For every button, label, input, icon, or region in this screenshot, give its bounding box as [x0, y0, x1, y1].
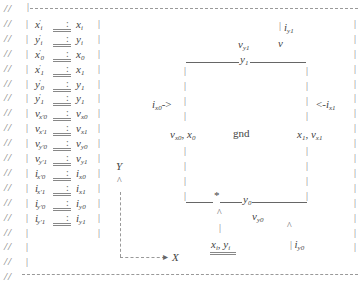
mapping-rhs: ix0 — [76, 167, 86, 181]
mapping-rhs: vx0 — [76, 107, 88, 121]
point-label-underline — [210, 252, 236, 255]
comment-prefix: // — [4, 255, 12, 267]
left-current-label: ix0-> — [152, 98, 172, 112]
top-voltage-label: vy1 — [238, 38, 250, 52]
left-border-bar: | — [26, 107, 28, 118]
mapping-right-bar: | — [98, 152, 100, 163]
mapping-separator: : — [66, 18, 69, 29]
mapping-rhs: ix1 — [76, 182, 86, 196]
mapping-lhs: y′0 — [35, 78, 44, 92]
cell-left-edge-bar: | — [184, 175, 186, 186]
mapping-underline — [53, 178, 71, 181]
comment-prefix: // — [4, 166, 12, 178]
left-border-bar: | — [26, 18, 28, 29]
mapping-right-bar: | — [98, 92, 100, 103]
mapping-rhs: iy1 — [76, 212, 86, 226]
top-edge-right — [250, 62, 306, 63]
mapping-rhs: xi — [76, 18, 83, 32]
x-axis-label: X — [172, 251, 179, 263]
right-border-bar: | — [354, 18, 356, 29]
left-border-bar: | — [26, 227, 28, 238]
mapping-rhs: x1 — [76, 63, 84, 77]
cell-left-edge-bar: | — [184, 80, 186, 91]
frame-bottom-dashed — [22, 274, 358, 275]
top-current-label: iy1 — [284, 21, 294, 35]
cell-left-edge-bar: | — [184, 95, 186, 106]
comment-prefix: // — [4, 106, 12, 118]
cell-left-edge-bar: | — [184, 110, 186, 121]
mapping-right-bar: | — [98, 227, 100, 238]
point-star-marker: * — [214, 189, 220, 201]
mapping-underline — [53, 59, 71, 62]
comment-prefix: // — [4, 77, 12, 89]
comment-prefix: // — [4, 17, 12, 29]
cell-left-edge-bar: | — [184, 190, 186, 201]
mapping-lhs: vy′1 — [35, 152, 47, 166]
mapping-underline — [53, 223, 71, 226]
mapping-underline — [53, 29, 71, 32]
bottom-current-label: | iy0 — [290, 238, 304, 252]
mapping-underline — [53, 148, 71, 151]
cell-left-edge-bar: | — [184, 160, 186, 171]
mapping-lhs: vx′1 — [35, 122, 47, 136]
mapping-rhs: vy1 — [76, 152, 88, 166]
comment-prefix: // — [4, 32, 12, 44]
left-border-bar: | — [26, 167, 28, 178]
left-border-bar: | — [26, 48, 28, 59]
right-border-bar: | — [354, 63, 356, 74]
right-border-bar: | — [354, 33, 356, 44]
right-border-bar: | — [354, 212, 356, 223]
mapping-lhs: x′1 — [35, 63, 44, 77]
left-border-bar: | — [26, 78, 28, 89]
cell-left-edge-bar: | — [184, 145, 186, 156]
mapping-rhs: y1 — [76, 92, 84, 106]
mapping-right-bar: | — [98, 212, 100, 223]
mapping-underline — [53, 163, 71, 166]
left-border-bar: | — [26, 152, 28, 163]
mapping-rhs: yi — [76, 33, 83, 47]
mapping-underline — [53, 133, 71, 136]
right-coord-voltage-label: x1, vx1 — [297, 128, 322, 142]
mapping-separator: : — [66, 48, 69, 59]
comment-prefix: // — [4, 136, 12, 148]
x-axis-arrowhead: ▸ — [163, 251, 168, 262]
mapping-separator: : — [66, 122, 69, 133]
mapping-separator: : — [66, 167, 69, 178]
cell-right-edge-bar: | — [306, 110, 308, 121]
mapping-right-bar: | — [98, 78, 100, 89]
mapping-lhs: x′0 — [35, 48, 44, 62]
mapping-right-bar: | — [98, 33, 100, 44]
point-caret: ^ — [217, 207, 222, 218]
mapping-separator: : — [66, 182, 69, 193]
comment-prefix: // — [4, 151, 12, 163]
mapping-separator: : — [66, 33, 69, 44]
comment-prefix: // — [4, 2, 12, 14]
point-pointer-bar: | — [219, 222, 221, 233]
right-border-bar: | — [354, 182, 356, 193]
mapping-rhs: vx1 — [76, 122, 88, 136]
bottom-current-caret: ^ — [287, 220, 292, 231]
left-border-bar: | — [26, 256, 28, 267]
right-border-bar: | — [354, 107, 356, 118]
cell-right-edge-bar: | — [306, 95, 308, 106]
comment-prefix: // — [4, 196, 12, 208]
y-axis-line — [120, 192, 121, 257]
mapping-separator: : — [66, 63, 69, 74]
mapping-right-bar: | — [98, 182, 100, 193]
mapping-lhs: ix′0 — [35, 167, 45, 181]
cell-right-edge-bar: | — [306, 190, 308, 201]
mapping-lhs: y′1 — [35, 92, 44, 106]
left-border-bar: | — [26, 137, 28, 148]
mapping-underline — [53, 89, 71, 92]
mapping-lhs: x′i — [35, 18, 42, 32]
comment-prefix: // — [4, 240, 12, 252]
comment-prefix: // — [4, 226, 12, 238]
right-border-bar: | — [354, 137, 356, 148]
mapping-rhs: y1 — [76, 78, 84, 92]
mapping-lhs: ix′1 — [35, 182, 45, 196]
comment-prefix: // — [4, 211, 12, 223]
left-voltage-coord-label: vx0, x0 — [170, 128, 195, 142]
left-border-bar: | — [26, 241, 28, 252]
mapping-separator: : — [66, 152, 69, 163]
left-border-bar: | — [26, 182, 28, 193]
